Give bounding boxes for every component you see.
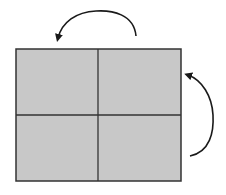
panel-grid (16, 49, 181, 181)
panel-bottom-right (98, 115, 181, 181)
panel-bottom-left (16, 115, 98, 181)
right-curved-arrow-icon (188, 75, 213, 156)
top-curved-arrow-icon (58, 11, 136, 38)
panel-top-left (16, 49, 98, 115)
rotation-diagram (0, 0, 226, 195)
panel-top-right (98, 49, 181, 115)
